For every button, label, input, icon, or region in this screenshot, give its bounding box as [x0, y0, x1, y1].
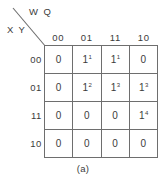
figure-caption: (a) — [0, 163, 166, 174]
cell-value: 0 — [56, 139, 62, 149]
column-header-00: 00 — [44, 31, 73, 44]
kmap-cell-r1-c0[interactable]: 0 — [45, 74, 73, 101]
kmap-cell-r1-c3[interactable]: 13 — [130, 74, 157, 101]
column-header-11: 11 — [101, 31, 130, 44]
karnaugh-map-grid: 0111100121313000140000 — [44, 45, 158, 158]
row-header-10: 10 — [18, 130, 42, 158]
cell-group-superscript: 3 — [117, 82, 120, 88]
kmap-cell-r0-c1[interactable]: 11 — [73, 46, 101, 73]
kmap-cell-r3-c2[interactable]: 0 — [102, 130, 130, 157]
column-header-01: 01 — [73, 31, 102, 44]
kmap-cell-r2-c0[interactable]: 0 — [45, 102, 73, 129]
kmap-cell-r1-c2[interactable]: 13 — [102, 74, 130, 101]
cell-value: 0 — [56, 111, 62, 121]
cell-value: 0 — [84, 139, 90, 149]
kmap-cell-r2-c2[interactable]: 0 — [102, 102, 130, 129]
kmap-cell-r1-c1[interactable]: 12 — [73, 74, 101, 101]
cell-group-superscript: 2 — [88, 82, 91, 88]
kmap-cell-r0-c3[interactable]: 0 — [130, 46, 157, 73]
kmap-cell-r2-c1[interactable]: 0 — [73, 102, 101, 129]
cell-value: 1 — [82, 83, 88, 93]
cell-value: 1 — [111, 83, 117, 93]
kmap-cell-r0-c0[interactable]: 0 — [45, 46, 73, 73]
row-header-01: 01 — [18, 73, 42, 101]
kmap-cell-r2-c3[interactable]: 14 — [130, 102, 157, 129]
kmap-cell-r3-c1[interactable]: 0 — [73, 130, 101, 157]
cell-value: 1 — [82, 55, 88, 65]
kmap-cell-r3-c3[interactable]: 0 — [130, 130, 157, 157]
cell-group-superscript: 1 — [88, 54, 91, 60]
corner-diagonal-line — [12, 7, 48, 49]
kmap-row: 00014 — [45, 102, 157, 130]
cell-value: 0 — [141, 139, 147, 149]
kmap-cell-r0-c2[interactable]: 11 — [102, 46, 130, 73]
row-header-11: 11 — [18, 102, 42, 130]
row-headers: 00011110 — [18, 45, 42, 158]
kmap-row: 0000 — [45, 130, 157, 157]
cell-value: 1 — [139, 83, 145, 93]
cell-value: 0 — [141, 55, 147, 65]
cell-value: 0 — [84, 111, 90, 121]
kmap-cell-r3-c0[interactable]: 0 — [45, 130, 73, 157]
cell-group-superscript: 1 — [117, 54, 120, 60]
cell-group-superscript: 3 — [145, 82, 148, 88]
kmap-row: 011110 — [45, 46, 157, 74]
column-header-10: 10 — [130, 31, 159, 44]
cell-value: 0 — [112, 111, 118, 121]
cell-value: 0 — [56, 83, 62, 93]
cell-value: 0 — [56, 55, 62, 65]
row-header-00: 00 — [18, 45, 42, 73]
cell-group-superscript: 4 — [145, 110, 148, 116]
column-headers: 00011110 — [44, 31, 158, 44]
karnaugh-map-figure: W Q X Y 00011110 00011110 01111001213130… — [0, 0, 166, 179]
kmap-row: 0121313 — [45, 74, 157, 102]
cell-value: 1 — [111, 55, 117, 65]
cell-value: 0 — [112, 139, 118, 149]
cell-value: 1 — [139, 111, 145, 121]
